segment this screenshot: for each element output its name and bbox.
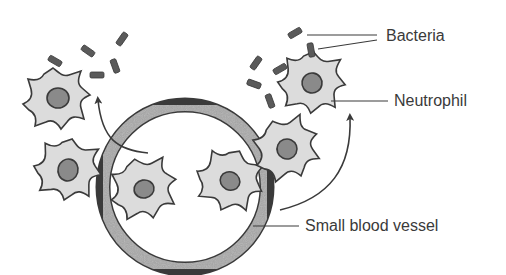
neutrophil-left-lower <box>27 131 108 207</box>
bacteria-leader-2 <box>318 40 377 49</box>
bacteria-left-cluster <box>47 32 128 78</box>
neutrophil-inside-left <box>105 153 182 225</box>
diagram-canvas: Bacteria Neutrophil Small blood vessel <box>0 0 506 275</box>
bacteria-label: Bacteria <box>386 28 445 44</box>
vessel-label: Small blood vessel <box>305 218 438 234</box>
neutrophil-left-top <box>23 68 90 129</box>
neutrophil-label: Neutrophil <box>394 93 467 109</box>
